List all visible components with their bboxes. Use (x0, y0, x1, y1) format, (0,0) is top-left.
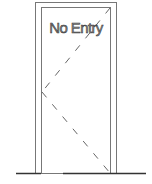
door-label: No Entry (41, 19, 111, 36)
